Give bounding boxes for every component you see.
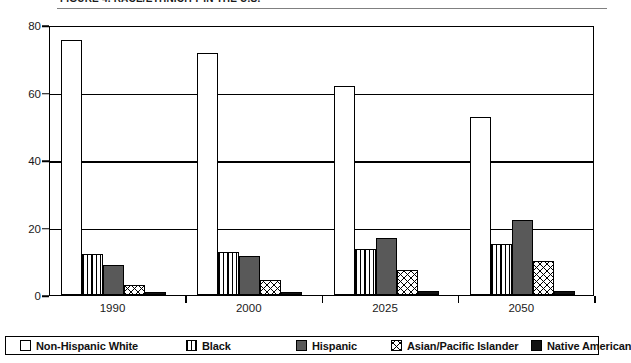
bar	[260, 280, 281, 295]
x-tick-mark-2	[458, 296, 460, 303]
legend-label: Hispanic	[312, 340, 357, 352]
legend-item-non-hispanic-white[interactable]: Non-Hispanic White	[20, 340, 138, 352]
bar	[334, 86, 355, 295]
x-tick-mark-1	[322, 296, 324, 303]
bar	[218, 252, 239, 295]
x-tick-mark-0	[185, 296, 187, 303]
y-tick-label-80: 80	[1, 20, 41, 32]
bar	[491, 244, 512, 295]
y-tick-label-60: 60	[1, 88, 41, 100]
legend-label: Native American	[547, 340, 631, 352]
bar	[355, 249, 376, 295]
bar	[397, 270, 418, 295]
bar	[239, 256, 260, 295]
bar	[197, 53, 218, 295]
bar	[533, 261, 554, 295]
x-tick-label-2050: 2050	[508, 302, 534, 314]
bar	[82, 254, 103, 296]
bar-group-2025	[334, 27, 439, 295]
bar	[61, 40, 82, 295]
legend-label: Black	[202, 340, 231, 352]
bar	[470, 117, 491, 295]
bar-group-1990	[61, 27, 166, 295]
header-rule	[57, 8, 607, 9]
bar	[418, 291, 439, 295]
bar	[376, 238, 397, 295]
x-tick-label-2000: 2000	[236, 302, 262, 314]
legend-item-black[interactable]: Black	[186, 340, 231, 352]
bar	[512, 220, 533, 295]
legend-item-native-american[interactable]: Native American	[531, 340, 631, 352]
figure-caption-text: FIGURE 4. RACE/ETHNICITY IN THE U.S.	[60, 0, 260, 4]
bar-group-2050	[470, 27, 575, 295]
truncated-header: FIGURE 4. RACE/ETHNICITY IN THE U.S.	[0, 0, 607, 10]
legend-swatch-icon	[20, 340, 31, 351]
y-tick-mark-80	[42, 25, 49, 27]
bar	[145, 292, 166, 295]
bar	[281, 292, 302, 295]
bar	[124, 285, 145, 295]
legend-swatch-icon	[531, 340, 542, 351]
y-tick-mark-60	[42, 93, 49, 95]
bar	[103, 265, 124, 295]
x-tick-label-1990: 1990	[100, 302, 126, 314]
plot-area	[49, 26, 594, 296]
legend-swatch-icon	[391, 340, 402, 351]
y-tick-mark-40	[42, 160, 49, 162]
bar	[554, 291, 575, 295]
x-tick-label-2025: 2025	[372, 302, 398, 314]
chart-legend: Non-Hispanic WhiteBlackHispanicAsian/Pac…	[5, 336, 599, 355]
legend-swatch-icon	[296, 340, 307, 351]
bar-group-2000	[197, 27, 302, 295]
legend-label: Asian/Pacific Islander	[407, 340, 519, 352]
x-tick-mark-3	[594, 296, 596, 303]
y-tick-label-0: 0	[1, 290, 41, 302]
legend-label: Non-Hispanic White	[36, 340, 138, 352]
y-tick-mark-20	[42, 228, 49, 230]
y-tick-label-20: 20	[1, 223, 41, 235]
legend-item-asian-pacific-islander[interactable]: Asian/Pacific Islander	[391, 340, 519, 352]
legend-item-hispanic[interactable]: Hispanic	[296, 340, 357, 352]
y-tick-label-40: 40	[1, 155, 41, 167]
y-tick-mark-0	[42, 295, 49, 297]
legend-swatch-icon	[186, 340, 197, 351]
